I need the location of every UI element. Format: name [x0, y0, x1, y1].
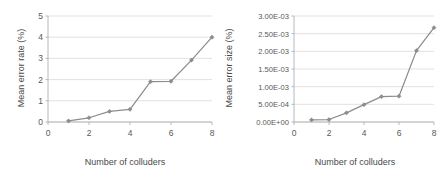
- gridlines-left: [48, 16, 212, 122]
- series-data-point: [327, 117, 331, 121]
- x-tick-label: 6: [169, 128, 174, 138]
- two-panel-line-chart-figure: 012345 02468 Number of colluders Mean er…: [0, 0, 445, 173]
- series-data-point: [87, 116, 91, 120]
- y-tick-label: 4: [38, 32, 43, 42]
- y-tick-label: 1: [38, 96, 43, 106]
- ytick-labels-right: 0.00E+005.00E-041.00E-031.50E-032.00E-03…: [256, 12, 289, 127]
- y-tick-label: 3: [38, 53, 43, 63]
- x-tick-label: 0: [46, 128, 51, 138]
- x-axis-title: Number of colluders: [85, 157, 166, 167]
- series-data-point: [379, 94, 383, 98]
- ytick-labels-left: 012345: [38, 11, 43, 127]
- series-line: [312, 28, 435, 120]
- x-tick-label: 4: [128, 128, 133, 138]
- x-tick-label: 4: [362, 128, 367, 138]
- y-tick-label: 5: [38, 11, 43, 21]
- series-data-point: [362, 103, 366, 107]
- x-tick-label: 8: [210, 128, 215, 138]
- y-tick-label: 1.00E-03: [258, 83, 289, 92]
- series-data-point: [309, 118, 313, 122]
- x-tick-label: 2: [327, 128, 332, 138]
- y-tick-label: 0: [38, 117, 43, 127]
- xtick-labels-left: 02468: [46, 128, 215, 138]
- y-tick-label: 2: [38, 75, 43, 85]
- chart-panel-mean-error-size: 0.00E+005.00E-041.00E-031.50E-032.00E-03…: [222, 0, 445, 173]
- series-line: [69, 37, 213, 121]
- chart-panel-mean-error-rate: 012345 02468 Number of colluders Mean er…: [0, 0, 222, 173]
- series-left: [66, 35, 214, 123]
- x-tick-label: 6: [397, 128, 402, 138]
- x-tick-label: 0: [292, 128, 297, 138]
- y-axis-title: Mean error rate (%): [16, 29, 26, 108]
- xtick-labels-right: 02468: [292, 128, 437, 138]
- x-tick-label: 2: [87, 128, 92, 138]
- y-tick-label: 2.00E-03: [258, 47, 289, 56]
- series-right: [309, 26, 436, 122]
- series-data-point: [344, 111, 348, 115]
- y-tick-label: 3.00E-03: [258, 12, 289, 21]
- axes-right: [292, 16, 435, 125]
- y-tick-label: 1.50E-03: [258, 65, 289, 74]
- y-tick-label: 0.00E+00: [256, 118, 289, 127]
- series-data-point: [107, 109, 111, 113]
- y-tick-label: 5.00E-04: [258, 100, 289, 109]
- mean-error-rate-chart: 012345 02468 Number of colluders Mean er…: [0, 0, 222, 173]
- x-axis-title: Number of colluders: [315, 157, 396, 167]
- series-data-point: [397, 94, 401, 98]
- y-axis-title: Mean error size (%): [224, 28, 234, 107]
- mean-error-size-chart: 0.00E+005.00E-041.00E-031.50E-032.00E-03…: [222, 0, 445, 173]
- y-tick-label: 2.50E-03: [258, 30, 289, 39]
- x-tick-label: 8: [432, 128, 437, 138]
